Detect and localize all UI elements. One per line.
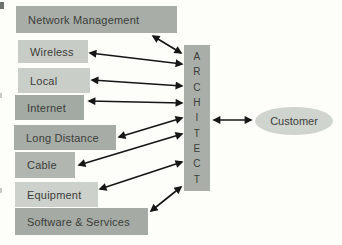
- node-local: Local: [18, 68, 90, 93]
- node-software-services: Software & Services: [15, 208, 148, 235]
- connector-long-distance-architect: [119, 118, 182, 137]
- connector-internet-architect: [89, 101, 182, 103]
- page-edge-mark: [0, 188, 2, 193]
- node-label: Wireless: [30, 46, 74, 58]
- node-label: Network Management: [28, 14, 139, 26]
- diagram-canvas: Network Management Wireless Local Intern…: [0, 0, 342, 245]
- node-long-distance: Long Distance: [14, 125, 116, 150]
- node-label: Local: [30, 75, 57, 87]
- node-wireless: Wireless: [18, 40, 88, 63]
- node-customer: Customer: [255, 107, 333, 135]
- node-label: Equipment: [27, 189, 81, 201]
- page-edge-mark: [0, 93, 2, 98]
- node-label: Cable: [27, 159, 57, 171]
- node-equipment: Equipment: [15, 182, 98, 207]
- node-cable: Cable: [15, 152, 75, 178]
- connector-equipment-architect: [100, 162, 182, 189]
- hub-label: A R C H I T E C T: [193, 49, 201, 187]
- node-label: Internet: [27, 102, 66, 114]
- customer-label: Customer: [270, 115, 318, 127]
- connector-network-management-architect: [153, 36, 181, 53]
- node-label: Software & Services: [27, 216, 130, 228]
- node-label: Long Distance: [26, 132, 99, 144]
- node-internet: Internet: [15, 95, 84, 120]
- node-architect: A R C H I T E C T: [184, 45, 210, 191]
- connector-local-architect: [92, 80, 182, 86]
- node-network-management: Network Management: [16, 6, 177, 33]
- page-edge-mark: [0, 2, 4, 9]
- connector-software-services-architect: [151, 187, 181, 211]
- connector-wireless-architect: [90, 53, 182, 64]
